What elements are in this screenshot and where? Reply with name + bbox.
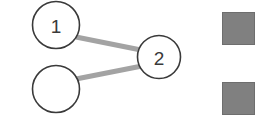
swatch-top[interactable] — [222, 12, 255, 45]
node-3-circle[interactable] — [33, 66, 80, 113]
node-1[interactable]: 1 — [33, 2, 80, 49]
diagram-canvas: 1 2 — [0, 0, 278, 132]
node-layer: 1 2 — [33, 2, 181, 113]
edge-node3-node2[interactable] — [76, 66, 142, 79]
swatch-bottom[interactable] — [222, 82, 255, 115]
edge-layer — [76, 37, 142, 79]
node-2-label: 2 — [154, 48, 165, 69]
node-2[interactable]: 2 — [138, 36, 181, 79]
node-1-label: 1 — [51, 16, 62, 37]
node-3[interactable] — [33, 66, 80, 113]
edge-node1-node2[interactable] — [76, 37, 141, 50]
